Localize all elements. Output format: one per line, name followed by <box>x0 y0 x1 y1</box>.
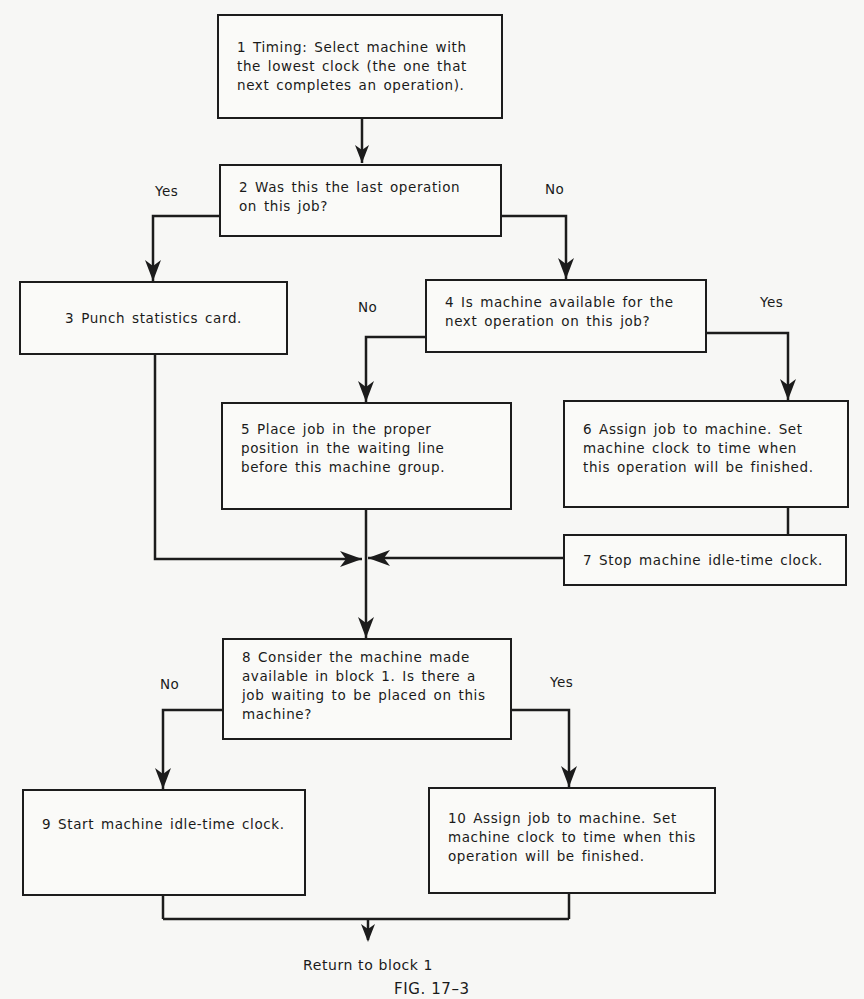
label-block4-yes: Yes <box>760 294 783 310</box>
label-block8-yes: Yes <box>550 674 573 690</box>
label-block2-yes: Yes <box>155 183 178 199</box>
block-8-text: 8 Consider the machine made available in… <box>224 640 510 724</box>
block-1-timing: 1 Timing: Select machine with the lowest… <box>217 14 503 119</box>
label-block8-no: No <box>160 676 179 692</box>
label-block4-no: No <box>358 299 377 315</box>
block-2-text: 2 Was this the last operation on this jo… <box>221 166 500 216</box>
block-3-punch-card: 3 Punch statistics card. <box>19 281 288 355</box>
block-9-text: 9 Start machine idle-time clock. <box>24 791 303 834</box>
block-1-text: 1 Timing: Select machine with the lowest… <box>219 38 501 95</box>
block-5-waiting-line: 5 Place job in the proper position in th… <box>221 402 512 510</box>
figure-caption: FIG. 17–3 <box>394 980 470 998</box>
return-to-block-1: Return to block 1 <box>303 957 433 973</box>
block-7-stop-idle-clock: 7 Stop machine idle-time clock. <box>563 534 847 586</box>
block-6-text: 6 Assign job to machine. Set machine clo… <box>565 402 847 477</box>
block-3-text: 3 Punch statistics card. <box>47 309 260 328</box>
block-4-decision-machine-available: 4 Is machine available for the next oper… <box>425 279 707 353</box>
block-8-decision-job-waiting: 8 Consider the machine made available in… <box>222 638 512 740</box>
block-4-text: 4 Is machine available for the next oper… <box>427 281 705 331</box>
block-2-decision-last-operation: 2 Was this the last operation on this jo… <box>219 164 502 237</box>
block-10-text: 10 Assign job to machine. Set machine cl… <box>430 789 714 866</box>
block-5-text: 5 Place job in the proper position in th… <box>223 404 510 477</box>
block-10-assign-job: 10 Assign job to machine. Set machine cl… <box>428 787 716 894</box>
block-7-text: 7 Stop machine idle-time clock. <box>565 551 841 570</box>
block-6-assign-job: 6 Assign job to machine. Set machine clo… <box>563 400 849 508</box>
label-block2-no: No <box>545 181 564 197</box>
block-9-start-idle-clock: 9 Start machine idle-time clock. <box>22 789 306 896</box>
